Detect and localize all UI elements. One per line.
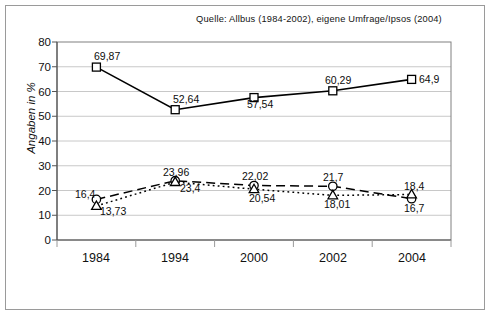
plot-area: Angaben in % 80 70 60 50 40 30 20 10 0 1… <box>0 0 491 316</box>
label-triangle-1984: 13,73 <box>100 205 126 217</box>
label-triangle-2004: 18,4 <box>404 180 424 192</box>
label-circle-1994: 23,96 <box>163 166 189 178</box>
label-triangle-2000: 20,54 <box>249 192 275 204</box>
chart-figure: Quelle: Allbus (1984-2002), eigene Umfra… <box>0 0 491 316</box>
label-circle-2004: 16,7 <box>404 202 424 214</box>
y-tick-marks <box>52 42 57 240</box>
label-circle-2002: 21,7 <box>323 171 343 183</box>
label-square-1984: 69,87 <box>94 50 120 62</box>
label-circle-1984: 16,4 <box>75 188 95 200</box>
label-square-1994: 52,64 <box>173 93 199 105</box>
label-square-2000: 57,54 <box>247 98 273 110</box>
label-triangle-1994: 23,4 <box>180 182 200 194</box>
chart-canvas <box>0 0 491 316</box>
label-circle-2000: 22,02 <box>242 170 268 182</box>
label-square-2002: 60,29 <box>325 74 351 86</box>
x-tick-marks <box>57 240 451 247</box>
label-square-2004: 64,9 <box>419 73 439 85</box>
label-triangle-2002: 18,01 <box>324 198 350 210</box>
